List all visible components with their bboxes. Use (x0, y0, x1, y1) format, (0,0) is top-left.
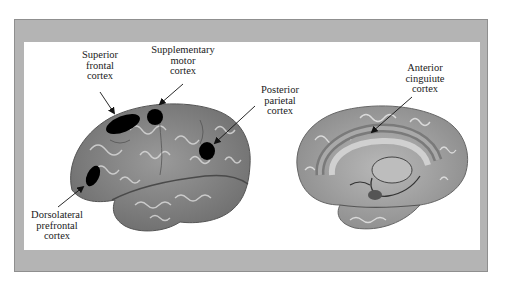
label-line: Dorsolateral (18, 210, 96, 221)
label-supplementary-motor-cortex: Supplementary motor cortex (138, 45, 228, 77)
label-line: Posterior (248, 85, 312, 96)
label-line: Supplementary (138, 45, 228, 56)
label-dorsolateral-prefrontal-cortex: Dorsolateral prefrontal cortex (18, 210, 96, 242)
label-line: cortex (138, 66, 228, 77)
label-line: Anterior (393, 63, 457, 74)
label-line: cortex (18, 231, 96, 242)
label-line: cortex (70, 71, 130, 82)
label-line: cortex (393, 84, 457, 95)
lateral-brain (71, 104, 251, 231)
label-anterior-cingulate-cortex: Anterior cinguiute cortex (393, 63, 457, 95)
brain-illustrations (0, 0, 510, 290)
label-posterior-parietal-cortex: Posterior parietal cortex (248, 85, 312, 117)
label-superior-frontal-cortex: Superior frontal cortex (70, 50, 130, 82)
supplementary-motor-highlight (147, 109, 163, 125)
label-line: cortex (248, 106, 312, 117)
posterior-parietal-highlight (199, 142, 215, 160)
label-line: Superior (70, 50, 130, 61)
medial-brain (297, 106, 468, 229)
